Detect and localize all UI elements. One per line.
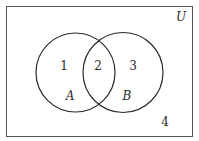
set-a-label: A	[65, 89, 75, 103]
region-label-b-only: 3	[129, 59, 137, 73]
venn-diagram: U 1 2 3 4 A B	[0, 0, 199, 141]
region-label-intersection: 2	[94, 59, 102, 73]
region-label-outside: 4	[161, 115, 169, 129]
universe-label: U	[176, 10, 187, 24]
region-label-a-only: 1	[60, 59, 68, 73]
set-a-circle	[36, 33, 115, 112]
set-b-label: B	[122, 89, 132, 103]
